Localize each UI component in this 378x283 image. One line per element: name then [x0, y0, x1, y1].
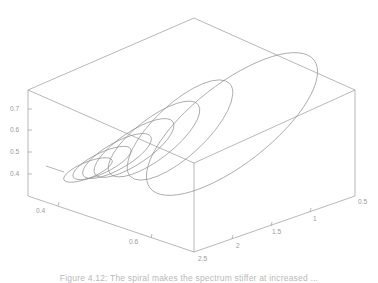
y-tick-label-0: 2.5	[198, 255, 207, 262]
spiral-loop-3	[77, 125, 158, 187]
box-top-face-edge-front-left	[28, 90, 194, 163]
bounding-box	[28, 18, 355, 252]
spiral-curve	[46, 28, 339, 219]
x-tick-label-0: 0.4	[36, 207, 45, 214]
spiral-loop-2	[69, 140, 135, 186]
figure-caption: Figure 4.12: The spiral makes the spectr…	[0, 273, 378, 283]
z-tick-label-3: 0.4	[10, 170, 19, 177]
spiral-loop-1	[61, 153, 115, 187]
box-bottom-edge-right	[194, 196, 355, 252]
y-tick-label-3: 1	[313, 215, 317, 222]
y-tick-label-2: 1.5	[272, 228, 281, 235]
box-bottom-edge-left	[28, 196, 194, 252]
x-tick-label-1: 0.6	[129, 238, 138, 245]
tick-labels: 0.7 0.6 0.5 0.4 0.4 0.6 2.5 2 1.5 1 0.5	[10, 105, 367, 262]
spiral-loop-7	[125, 28, 338, 219]
x-tick-1	[151, 234, 152, 238]
y-tick-label-4: 0.5	[358, 198, 367, 205]
x-tick-0	[58, 202, 59, 206]
z-tick-label-0: 0.7	[10, 105, 19, 112]
box-top-face-edge-back-left	[28, 18, 194, 90]
z-tick-label-2: 0.5	[10, 148, 19, 155]
z-tick-label-1: 0.6	[10, 126, 19, 133]
y-tick-label-1: 2	[236, 242, 240, 249]
y-tick-1	[271, 222, 272, 226]
spiral-tail	[46, 166, 64, 172]
box-top-face-edge-back-right	[194, 18, 355, 90]
spiral-loop-4	[86, 108, 182, 187]
